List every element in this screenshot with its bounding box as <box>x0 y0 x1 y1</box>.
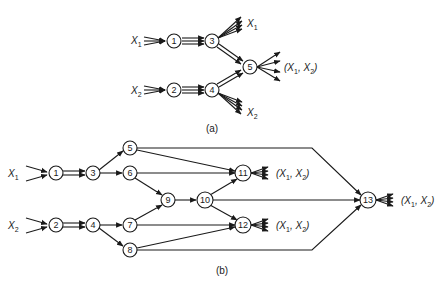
node-b-7: 7 <box>123 218 137 232</box>
svg-text:12: 12 <box>238 220 248 230</box>
input-fan-x2 <box>144 86 165 94</box>
label-b-output-12: (X1, X2) <box>276 220 309 233</box>
node-a-2: 2 <box>167 83 181 97</box>
svg-text:1: 1 <box>171 36 176 46</box>
label-a-output-4: X2 <box>246 107 258 120</box>
svg-text:13: 13 <box>363 195 373 205</box>
svg-text:11: 11 <box>238 168 247 178</box>
edge-b-6-9 <box>135 178 162 195</box>
node-a-4: 4 <box>205 83 219 97</box>
label-a-input-x1: X1 <box>130 35 142 48</box>
network-diagram: 1 2 3 4 5 X1 X2 X1 X2 (X1, X2) (a) <box>0 0 446 287</box>
svg-text:4: 4 <box>209 85 214 95</box>
node-b-10: 10 <box>197 192 213 208</box>
svg-text:2: 2 <box>171 85 176 95</box>
node-a-3: 3 <box>205 34 219 48</box>
input-fan-b-x2 <box>26 218 47 233</box>
edge-b-4-8 <box>99 228 123 246</box>
edge-b-10-12 <box>210 205 237 220</box>
node-b-3: 3 <box>86 166 100 180</box>
output-fan-13 <box>376 194 393 206</box>
output-fan-3 <box>218 17 242 38</box>
node-b-4: 4 <box>86 218 100 232</box>
node-b-12: 12 <box>235 217 251 233</box>
node-a-1: 1 <box>167 34 181 48</box>
edge-4-5 <box>217 70 243 87</box>
svg-text:3: 3 <box>209 36 214 46</box>
figure-b: 1 2 3 4 5 6 7 8 9 10 11 12 13 X1 X2 (X1,… <box>7 141 434 276</box>
svg-text:9: 9 <box>165 195 170 205</box>
label-a-output-3: X1 <box>246 18 258 31</box>
svg-text:8: 8 <box>127 245 132 255</box>
edge-b-10-11 <box>210 179 237 195</box>
svg-text:10: 10 <box>200 195 210 205</box>
edge-b-8-12 <box>137 227 235 248</box>
label-b-output-11: (X1, X2) <box>276 168 309 181</box>
svg-text:7: 7 <box>127 220 132 230</box>
edge-1-3 <box>182 38 204 44</box>
edge-2-4 <box>182 87 204 93</box>
input-fan-b-x1 <box>26 166 47 181</box>
output-fan-12 <box>251 219 268 231</box>
node-b-5: 5 <box>123 141 137 155</box>
label-a-output-5: (X1, X2) <box>284 62 317 75</box>
edge-3-5 <box>217 44 243 64</box>
output-fan-5 <box>257 52 280 81</box>
node-b-13: 13 <box>360 192 376 208</box>
input-fan-x1 <box>144 37 165 45</box>
edge-b-1-3 <box>63 171 85 175</box>
svg-text:6: 6 <box>127 168 132 178</box>
node-b-1: 1 <box>49 166 63 180</box>
edge-b-3-5 <box>99 151 123 170</box>
caption-b: (b) <box>216 265 228 276</box>
label-b-input-x1: X1 <box>7 168 19 181</box>
output-fan-4 <box>218 93 242 114</box>
caption-a: (a) <box>206 123 218 134</box>
label-b-input-x2: X2 <box>7 220 19 233</box>
node-b-2: 2 <box>49 218 63 232</box>
output-fan-11 <box>251 167 268 179</box>
svg-text:2: 2 <box>53 220 58 230</box>
node-b-11: 11 <box>235 165 251 181</box>
svg-text:1: 1 <box>53 168 58 178</box>
svg-text:5: 5 <box>247 62 252 72</box>
edge-b-5-11 <box>137 150 235 171</box>
svg-text:3: 3 <box>90 168 95 178</box>
label-a-input-x2: X2 <box>130 85 142 98</box>
label-b-output-13: (X1, X2) <box>401 195 434 208</box>
node-b-8: 8 <box>123 243 137 257</box>
node-a-5: 5 <box>243 60 257 74</box>
figure-a: 1 2 3 4 5 X1 X2 X1 X2 (X1, X2) (a) <box>130 17 317 134</box>
edge-b-7-9 <box>135 205 162 220</box>
node-b-6: 6 <box>123 166 137 180</box>
node-b-9: 9 <box>161 193 175 207</box>
svg-text:4: 4 <box>90 220 95 230</box>
edge-b-2-4 <box>63 223 85 227</box>
svg-text:5: 5 <box>127 143 132 153</box>
